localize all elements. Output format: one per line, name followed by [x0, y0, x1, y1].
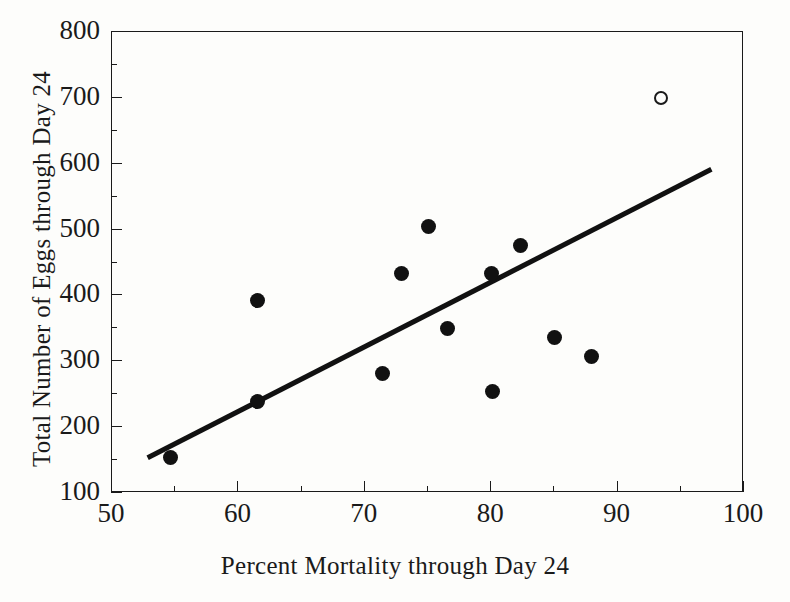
y-tick-minor: [111, 64, 117, 65]
y-tick-minor: [111, 459, 117, 460]
y-tick-minor: [111, 327, 117, 328]
data-point: [375, 366, 390, 381]
x-tick-major: [617, 481, 618, 492]
y-tick-minor: [111, 130, 117, 131]
x-tick-major: [111, 481, 112, 492]
regression-line: [111, 31, 743, 492]
y-tick-major: [111, 294, 122, 295]
y-tick-major: [111, 426, 122, 427]
y-tick-major: [111, 163, 122, 164]
x-tick-major: [743, 481, 744, 492]
data-point-open: [654, 91, 668, 105]
x-tick-major: [237, 481, 238, 492]
x-tick-major: [364, 481, 365, 492]
y-tick-major: [111, 229, 122, 230]
y-tick-minor: [111, 262, 117, 263]
data-point: [421, 219, 436, 234]
y-tick-label: 200: [4, 412, 100, 439]
y-tick-label: 500: [4, 215, 100, 242]
y-tick-label: 300: [4, 346, 100, 373]
data-point: [163, 450, 178, 465]
x-tick-minor: [174, 486, 175, 492]
plot-area: [111, 31, 743, 492]
x-tick-label: 90: [577, 500, 657, 527]
y-tick-major: [111, 97, 122, 98]
x-tick-minor: [553, 486, 554, 492]
x-tick-minor: [427, 486, 428, 492]
data-point: [394, 266, 409, 281]
y-tick-minor: [111, 393, 117, 394]
x-axis-title: Percent Mortality through Day 24: [0, 552, 790, 580]
y-tick-minor: [111, 196, 117, 197]
x-tick-label: 100: [703, 500, 783, 527]
x-tick-label: 70: [324, 500, 404, 527]
y-tick-label: 700: [4, 83, 100, 110]
figure-canvas: Percent Mortality through Day 24 Total N…: [0, 0, 790, 602]
x-tick-label: 60: [197, 500, 277, 527]
x-tick-label: 80: [450, 500, 530, 527]
data-point: [584, 349, 599, 364]
data-point: [484, 266, 499, 281]
data-point: [250, 293, 265, 308]
data-point: [513, 238, 528, 253]
x-tick-minor: [680, 486, 681, 492]
y-tick-major: [111, 360, 122, 361]
data-point: [440, 321, 455, 336]
x-tick-minor: [301, 486, 302, 492]
x-tick-label: 50: [71, 500, 151, 527]
y-tick-label: 400: [4, 280, 100, 307]
y-tick-label: 600: [4, 149, 100, 176]
data-point: [547, 330, 562, 345]
data-point: [250, 394, 265, 409]
y-tick-major: [111, 492, 122, 493]
data-point: [485, 384, 500, 399]
y-tick-major: [111, 31, 122, 32]
y-tick-label: 800: [4, 17, 100, 44]
x-tick-major: [490, 481, 491, 492]
